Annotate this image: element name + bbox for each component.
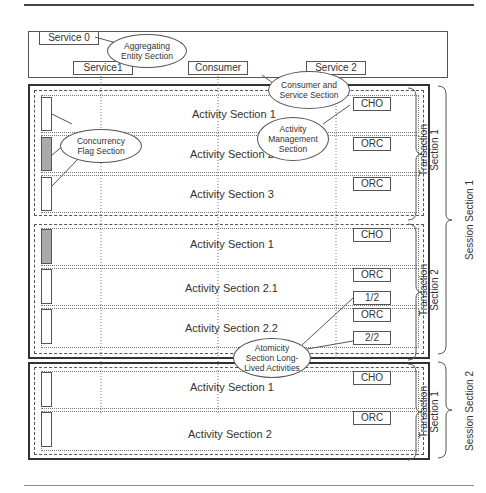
consumer-service-callout: Consumer and Service Section [268, 71, 350, 109]
cho-tag: CHO [353, 228, 391, 242]
orc-tag: ORC [353, 177, 391, 191]
transaction-label-line2: Section 1 [429, 382, 440, 442]
activity-label: Activity Section 3 [190, 188, 274, 200]
concurrency-flag-callout: Concurrency Flag Section [60, 129, 142, 163]
concurrency-flag-off [41, 309, 52, 344]
concurrency-flag-off [41, 269, 52, 304]
cho-tag: CHO [353, 97, 391, 111]
concurrency-flag-off [41, 412, 52, 447]
transaction-label-line1: Transaction [418, 260, 429, 320]
top-rule [24, 4, 474, 6]
consumer-box: Consumer [188, 61, 248, 75]
session-1-label: Session Section 1 [464, 170, 476, 270]
atomicity-callout: Atomicity Section Long-Lived Activities [233, 338, 311, 378]
concurrency-flag-off [41, 177, 52, 211]
session-2-transaction-1-label: Transaction Section 1 [418, 382, 442, 442]
activity-label: Activity Section 2 [188, 428, 272, 440]
activity-label: Activity Section 2.1 [185, 282, 278, 294]
transaction-label-line2: Section 2 [429, 260, 440, 320]
orc-tag: ORC [353, 268, 391, 282]
service-0-box: Service 0 [39, 31, 99, 45]
orc-tag: ORC [353, 411, 391, 425]
cho-tag: CHO [353, 371, 391, 385]
transaction-label-line1: Transaction [418, 120, 429, 180]
activity-label: Activity Section 1 [192, 108, 276, 120]
activity-label: Activity Section 1 [190, 238, 274, 250]
aggregating-entity-callout: Aggregating Entity Section [107, 34, 187, 68]
transaction-2-label: Transaction Section 2 [418, 260, 442, 320]
transaction-1-label: Transaction Section 1 [418, 120, 442, 180]
transaction-label-line1: Transaction [418, 382, 429, 442]
concurrency-flag-on [41, 229, 52, 264]
activity-label: Activity Section 1 [190, 381, 274, 393]
bottom-rule [24, 485, 474, 486]
activity-label: Activity Section 2.2 [185, 322, 278, 334]
activity-management-callout: Activity Management Section [257, 117, 329, 161]
concurrency-flag-off [41, 372, 52, 407]
concurrency-flag-on [41, 137, 52, 171]
concurrency-flag-off [41, 97, 52, 131]
part-1-of-2-tag: 1/2 [353, 291, 391, 305]
session-2-label: Session Section 2 [464, 361, 476, 461]
orc-tag: ORC [353, 137, 391, 151]
orc-tag: ORC [353, 308, 391, 322]
part-2-of-2-tag: 2/2 [353, 331, 391, 345]
transaction-label-line2: Section 1 [429, 120, 440, 180]
